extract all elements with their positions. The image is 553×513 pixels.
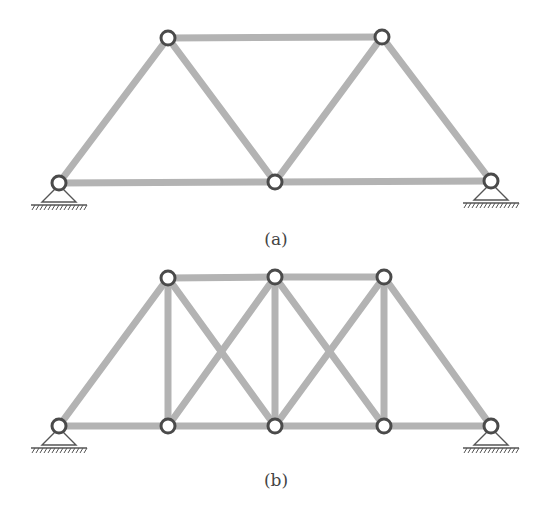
joint-a-A1 [52, 176, 66, 190]
truss-member-b-B1-T1 [59, 278, 168, 426]
joint-b-T3 [377, 270, 391, 284]
joint-b-T1 [161, 271, 175, 285]
truss-member-a-A3-A4 [275, 37, 382, 182]
truss-figure [0, 0, 553, 513]
truss-member-a-A2-A4 [168, 37, 382, 38]
joint-a-A5 [484, 174, 498, 188]
truss-member-a-A1-A3 [59, 182, 275, 183]
caption-b: (b) [264, 470, 288, 490]
truss-member-b-T3-B5 [384, 277, 491, 426]
joint-b-B4 [377, 419, 391, 433]
joint-a-A2 [161, 31, 175, 45]
truss-member-b-T1-T2 [168, 277, 275, 278]
joint-a-A4 [375, 30, 389, 44]
truss-member-a-A3-A5 [275, 181, 491, 182]
truss-member-a-A2-A3 [168, 38, 275, 182]
truss-member-a-A4-A5 [382, 37, 491, 181]
joint-b-T2 [268, 270, 282, 284]
joint-b-B5 [484, 419, 498, 433]
joint-a-A3 [268, 175, 282, 189]
truss-member-a-A1-A2 [59, 38, 168, 183]
joint-b-B3 [268, 419, 282, 433]
joint-b-B2 [161, 419, 175, 433]
joint-b-B1 [52, 419, 66, 433]
caption-a: (a) [264, 229, 287, 249]
